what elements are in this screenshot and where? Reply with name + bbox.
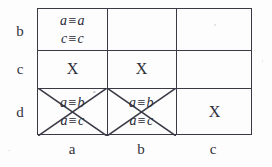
x-mark-icon: X [67, 61, 79, 77]
scan-speck [262, 60, 263, 62]
cell-b-b[interactable] [107, 9, 176, 50]
congruence-matrix-figure: b c d a b c a≡a c≡c X [0, 0, 272, 167]
cell-d-a-line-2-left: a [60, 113, 67, 128]
cell-b-a-line-2: c≡c [60, 30, 85, 48]
x-mark-icon: X [209, 104, 221, 120]
column-label-b: b [116, 142, 166, 157]
column-label-a: a [47, 142, 97, 157]
cell-d-b-line-2-left: a [129, 113, 136, 128]
cell-c-a[interactable]: X [38, 50, 107, 88]
cell-d-a-line-2-right: c [78, 113, 85, 128]
row-label-b: b [6, 24, 34, 39]
matrix-grid: a≡a c≡c X X [37, 8, 252, 135]
row-label-d: d [6, 105, 34, 120]
equiv-operator-icon: ≡ [67, 31, 77, 46]
scan-speck [214, 24, 216, 26]
cell-c-c[interactable] [176, 50, 253, 88]
equiv-operator-icon: ≡ [68, 113, 78, 128]
cell-b-c[interactable] [176, 9, 253, 50]
cell-d-a-line-1: a≡b [60, 94, 85, 112]
cell-c-b[interactable]: X [107, 50, 176, 88]
equiv-operator-icon: ≡ [136, 95, 146, 110]
scan-speck [8, 150, 10, 151]
equiv-operator-icon: ≡ [137, 113, 147, 128]
stray-pencil-mark: u [93, 89, 96, 94]
cell-d-b-line-1: a≡b [129, 94, 154, 112]
cell-d-b-line-1-right: b [147, 95, 154, 110]
cell-b-a-line-1: a≡a [60, 12, 85, 30]
cell-b-a-line-1-right: a [78, 13, 85, 28]
equiv-operator-icon: ≡ [67, 13, 77, 28]
cell-d-a-line-1-right: b [78, 95, 85, 110]
column-label-c: c [188, 142, 238, 157]
cell-d-a[interactable]: a≡b a≡c [38, 88, 107, 136]
row-label-c: c [6, 62, 34, 77]
cell-d-c[interactable]: X [176, 88, 253, 136]
equiv-operator-icon: ≡ [67, 95, 77, 110]
cell-b-a[interactable]: a≡a c≡c [38, 9, 107, 50]
cell-d-b-line-2-right: c [147, 113, 154, 128]
x-mark-icon: X [136, 61, 148, 77]
cell-d-b[interactable]: a≡b a≡c [107, 88, 176, 136]
cell-d-b-line-2: a≡c [129, 112, 154, 130]
cell-b-a-line-2-right: c [78, 31, 85, 46]
cell-d-a-line-2: a≡c [60, 112, 85, 130]
